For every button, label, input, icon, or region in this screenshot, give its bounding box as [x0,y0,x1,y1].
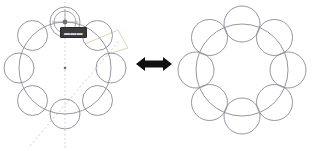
handle-center-dot[interactable] [63,20,68,25]
pattern-circles[interactable] [178,6,306,134]
drag-value-tooltip: ▬▬▬ [60,27,87,38]
pattern-ring-path[interactable] [196,24,288,116]
diagonal-axis-guide [30,40,120,146]
diagram-canvas: · ·· · ··· · ·· ▬▬▬ [0,0,320,151]
angle-leader-guide [85,30,128,54]
figure-pattern-result-state[interactable] [160,0,320,151]
pattern-center-marker[interactable] [64,67,67,70]
arrow-head-left [136,57,145,71]
pattern-center-marker[interactable] [64,67,67,70]
ring-guide-circle[interactable] [196,24,288,116]
